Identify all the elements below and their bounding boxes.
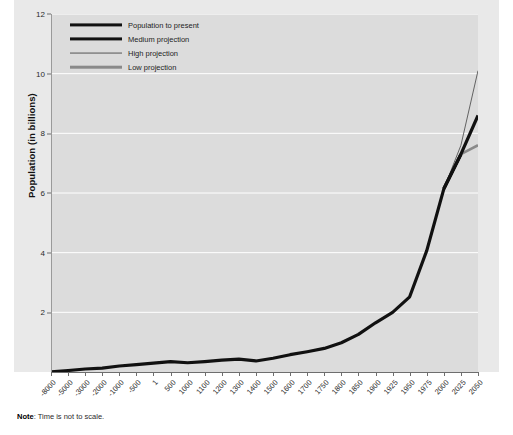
x-tick-label: 1600 <box>279 378 297 396</box>
x-tick-mark <box>290 372 291 376</box>
x-tick-mark <box>461 372 462 376</box>
legend-item: High projection <box>70 46 270 60</box>
x-tick-mark <box>153 372 154 376</box>
series-line <box>444 115 478 188</box>
y-tick-mark <box>47 14 51 15</box>
legend-item-label: Low projection <box>128 63 176 72</box>
x-tick-label: 1750 <box>313 378 331 396</box>
note-prefix: Note <box>17 412 34 421</box>
legend-line-icon <box>70 46 122 60</box>
x-tick-label: 1200 <box>211 378 229 396</box>
x-tick-label: 1700 <box>296 378 314 396</box>
x-tick-mark <box>205 372 206 376</box>
x-tick-mark <box>136 372 137 376</box>
x-tick-mark <box>444 372 445 376</box>
x-tick-mark <box>376 372 377 376</box>
x-tick-mark <box>188 372 189 376</box>
x-tick-mark <box>324 372 325 376</box>
y-tick-mark <box>47 133 51 134</box>
x-tick-label: -1000 <box>106 378 126 398</box>
x-tick-label: -2000 <box>89 378 109 398</box>
x-tick-mark <box>256 372 257 376</box>
note-text: Time is not to scale. <box>38 412 104 421</box>
y-tick-label: 4 <box>41 248 51 257</box>
legend-item-label: Medium projection <box>128 35 189 44</box>
x-tick-mark <box>427 372 428 376</box>
x-tick-label: 1975 <box>416 378 434 396</box>
x-tick-mark <box>478 372 479 376</box>
y-tick-label: 12 <box>36 10 51 19</box>
x-tick-label: 1000 <box>176 378 194 396</box>
x-tick-mark <box>239 372 240 376</box>
y-tick-mark <box>47 74 51 75</box>
legend-line-icon <box>70 18 122 32</box>
x-tick-label: -3000 <box>72 378 92 398</box>
x-tick-label: 1400 <box>245 378 263 396</box>
y-tick-label: 2 <box>41 308 51 317</box>
y-tick-mark <box>47 193 51 194</box>
x-tick-label: 1850 <box>347 378 365 396</box>
x-tick-mark <box>222 372 223 376</box>
chart-legend: Population to presentMedium projectionHi… <box>70 18 270 74</box>
y-tick-mark <box>47 312 51 313</box>
x-tick-mark <box>171 372 172 376</box>
y-tick-label: 8 <box>41 129 51 138</box>
x-tick-mark <box>393 372 394 376</box>
y-tick-mark <box>47 253 51 254</box>
x-tick-label: 1300 <box>228 378 246 396</box>
x-tick-mark <box>85 372 86 376</box>
legend-item: Low projection <box>70 60 270 74</box>
legend-item-label: Population to present <box>128 21 199 30</box>
x-tick-label: 1950 <box>399 378 417 396</box>
legend-line-icon <box>70 60 122 74</box>
x-tick-mark <box>68 372 69 376</box>
x-tick-label: 1925 <box>381 378 399 396</box>
x-tick-label: 2000 <box>433 378 451 396</box>
legend-item-label: High projection <box>128 49 178 58</box>
x-tick-label: 1100 <box>194 378 211 396</box>
x-tick-label: -500 <box>126 378 143 395</box>
x-tick-mark <box>358 372 359 376</box>
x-tick-label: 1800 <box>330 378 348 396</box>
y-axis-line <box>51 14 52 372</box>
y-axis-title: Population (in billions) <box>26 66 37 226</box>
x-tick-label: 2025 <box>450 378 468 396</box>
x-tick-mark <box>307 372 308 376</box>
x-tick-label: 1500 <box>262 378 280 396</box>
x-tick-mark <box>341 372 342 376</box>
legend-item: Population to present <box>70 18 270 32</box>
x-tick-mark <box>119 372 120 376</box>
figure-right-margin <box>499 0 513 405</box>
x-tick-label: 500 <box>162 378 177 393</box>
x-axis-ticks: -8000-5000-3000-2000-1000-50015001000110… <box>51 372 478 432</box>
x-tick-mark <box>102 372 103 376</box>
legend-line-icon <box>70 32 122 46</box>
x-tick-mark <box>51 372 52 376</box>
series-line <box>51 154 461 372</box>
y-tick-label: 6 <box>41 189 51 198</box>
x-tick-label: -5000 <box>55 378 75 398</box>
population-chart-figure: 24681012 -8000-5000-3000-2000-1000-50015… <box>0 0 513 435</box>
x-tick-mark <box>410 372 411 376</box>
x-tick-mark <box>273 372 274 376</box>
legend-item: Medium projection <box>70 32 270 46</box>
chart-note: Note: Time is not to scale. <box>17 412 104 421</box>
y-tick-label: 10 <box>36 69 51 78</box>
x-tick-label: 1900 <box>364 378 382 396</box>
x-tick-label: 1 <box>151 378 160 387</box>
